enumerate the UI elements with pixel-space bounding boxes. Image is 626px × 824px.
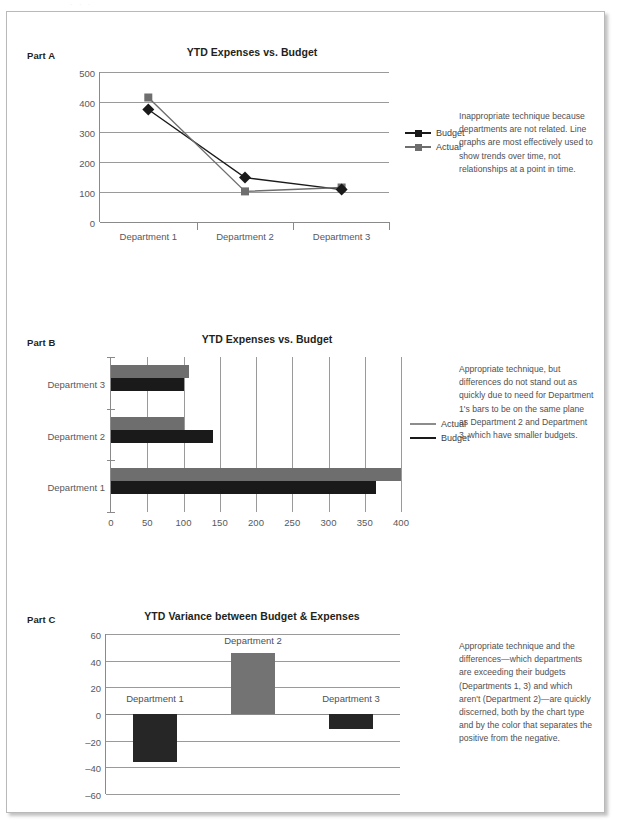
y-tick-label: 0	[96, 710, 101, 721]
legend-marker-diamond-icon	[405, 128, 431, 138]
marker-actual-dept2	[241, 187, 249, 195]
marker-actual-dept1	[144, 94, 152, 102]
part-a-panel: Part A YTD Expenses vs. Budget 500 400 3…	[7, 34, 606, 284]
legend-marker-square-icon	[405, 142, 431, 152]
part-b-title: YTD Expenses vs. Budget	[102, 333, 432, 345]
x-tick-label: 300	[321, 517, 337, 528]
legend-line-budget-icon	[410, 433, 436, 443]
bar-variance-dept3	[329, 714, 373, 729]
page-root: · · · Part A YTD Expenses vs. Budget 500…	[0, 0, 626, 824]
bar-budget-dept3	[111, 378, 184, 391]
legend-line-actual-icon	[410, 419, 436, 429]
part-a-title: YTD Expenses vs. Budget	[87, 46, 417, 58]
part-a-annotation: Inappropriate technique because departme…	[459, 110, 595, 176]
x-tick-label: 50	[142, 517, 153, 528]
part-b-annotation: Appropriate technique, but differences d…	[459, 363, 595, 442]
y-tick-label: –20	[85, 736, 101, 747]
y-tick-label: 300	[79, 128, 95, 139]
y-tick-label: 0	[90, 218, 95, 229]
bar-budget-dept2	[111, 430, 213, 443]
category-tick-mark	[107, 512, 115, 513]
bar-label-dept1: Department 1	[126, 693, 184, 704]
x-tick-label: 350	[357, 517, 373, 528]
y-tick-label: 400	[79, 98, 95, 109]
page-top-bleed: · · ·	[70, 0, 220, 6]
y-tick-label: 60	[90, 630, 101, 641]
marker-budget-dept2	[239, 172, 251, 184]
x-tick-label: 200	[248, 517, 264, 528]
part-a-legend: Budget Actual	[405, 126, 465, 154]
marker-budget-dept1	[142, 104, 154, 116]
x-tick-label: 250	[284, 517, 300, 528]
category-tick-mark	[107, 460, 115, 461]
page-sheet: Part A YTD Expenses vs. Budget 500 400 3…	[6, 11, 605, 813]
y-tick-label: –60	[85, 790, 101, 801]
category-label-dept2: Department 2	[47, 430, 105, 441]
y-tick-label: 200	[79, 158, 95, 169]
category-tick-mark	[107, 409, 115, 410]
bar-actual-dept2	[111, 417, 184, 430]
category-label-dept3: Department 3	[47, 379, 105, 390]
x-tick-label: 150	[212, 517, 228, 528]
x-tick-label-dept1: Department 1	[120, 231, 178, 242]
category-label-dept1: Department 1	[47, 482, 105, 493]
part-b-panel: Part B YTD Expenses vs. Budget	[7, 307, 606, 552]
bar-actual-dept3	[111, 365, 189, 378]
bar-variance-dept2	[231, 653, 275, 714]
category-tick-mark	[107, 357, 115, 358]
y-tick-label: 100	[79, 188, 95, 199]
y-tick-label: 500	[79, 68, 95, 79]
legend-label: Actual	[436, 141, 461, 153]
part-c-annotation: Appropriate technique and the difference…	[459, 640, 595, 746]
y-tick-label: 20	[90, 683, 101, 694]
y-tick-label: 40	[90, 656, 101, 667]
part-a-series-svg	[100, 72, 390, 232]
legend-item-actual: Actual	[405, 140, 465, 154]
part-c-title: YTD Variance between Budget & Expenses	[87, 610, 417, 622]
part-b-plot: Department 3 Department 2 Department 1 0…	[110, 357, 400, 512]
part-c-plot: 60 40 20 0 –20 –40 –60	[105, 634, 400, 794]
x-tick-label-dept2: Department 2	[216, 231, 274, 242]
bar-budget-dept1	[111, 481, 376, 494]
x-tick-label-dept3: Department 3	[313, 231, 371, 242]
x-tick-label: 0	[108, 517, 113, 528]
bar-label-dept2: Department 2	[224, 635, 282, 646]
part-c-label: Part C	[27, 614, 56, 625]
bar-actual-dept1	[111, 468, 401, 481]
part-c-panel: Part C YTD Variance between Budget & Exp…	[7, 592, 606, 814]
part-a-plot: 500 400 300 200 100 0	[99, 72, 389, 222]
x-tick-label: 100	[176, 517, 192, 528]
marker-budget-dept3	[336, 184, 348, 196]
legend-item-budget: Budget	[405, 126, 465, 140]
bar-variance-dept1	[133, 714, 177, 762]
part-a-label: Part A	[27, 50, 55, 61]
y-tick-label: –40	[85, 763, 101, 774]
bar-label-dept3: Department 3	[322, 693, 380, 704]
gridline: –60	[106, 794, 400, 795]
part-b-label: Part B	[27, 337, 56, 348]
x-tick-label: 400	[393, 517, 409, 528]
gridline: –40	[106, 767, 400, 768]
vgridline	[401, 357, 402, 512]
